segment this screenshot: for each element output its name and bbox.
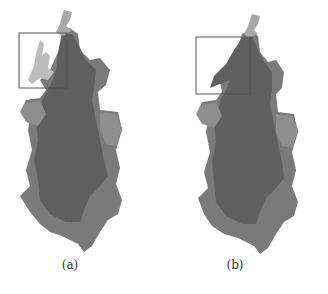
caption-b: (b) <box>215 258 255 272</box>
map-a <box>0 0 164 260</box>
caption-a: (a) <box>50 258 90 272</box>
map-b <box>164 0 328 260</box>
region-lightest-top <box>244 14 260 38</box>
panel-b: (b) <box>164 0 328 294</box>
panel-a: (a) <box>0 0 164 294</box>
